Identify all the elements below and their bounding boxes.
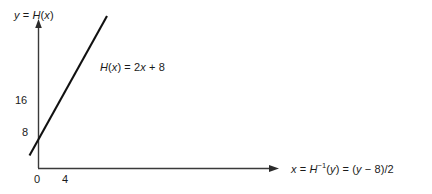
x-axis-arrowhead [269, 165, 279, 172]
y-tick-label-16: 16 [15, 95, 27, 106]
function-graph-figure: y = H(x) H(x) = 2x + 8 x = H−1(y) = (y −… [0, 0, 432, 194]
function-equation-label: H(x) = 2x + 8 [100, 62, 165, 73]
x-axis-label: x = H−1(y) = (y − 8)/2 [291, 164, 394, 175]
x-tick-label-4: 4 [62, 174, 68, 185]
x-tick-label-0: 0 [34, 174, 40, 185]
y-axis-label: y = H(x) [14, 10, 54, 21]
function-line-h [30, 16, 108, 156]
y-tick-label-8: 8 [22, 127, 28, 138]
